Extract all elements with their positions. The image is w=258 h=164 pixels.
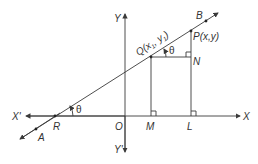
- right-angle-n: [186, 52, 191, 57]
- label-x-neg: X': [11, 111, 22, 122]
- point-b: [205, 20, 208, 23]
- label-y-neg: Y': [114, 144, 124, 155]
- label-theta-r: θ: [76, 104, 82, 115]
- label-l: L: [187, 121, 193, 132]
- label-theta-q: θ: [169, 45, 175, 56]
- label-m: M: [146, 121, 155, 132]
- point-r: [54, 115, 57, 118]
- right-angle-m: [151, 111, 156, 116]
- angle-arc-q: [164, 49, 166, 57]
- label-x: X: [242, 111, 250, 122]
- right-angle-l: [191, 111, 196, 116]
- label-a: A: [37, 132, 45, 143]
- label-q: Q(x1, y1): [134, 29, 171, 59]
- angle-arc-r: [70, 106, 73, 116]
- label-p: P(x,y): [193, 31, 219, 42]
- point-a: [35, 128, 38, 131]
- label-r: R: [53, 121, 60, 132]
- label-b: B: [196, 10, 203, 21]
- svg-text:Q(x1, y1): Q(x1, y1): [134, 29, 171, 59]
- label-y: Y: [114, 13, 122, 24]
- label-o: O: [115, 121, 123, 132]
- geometry-diagram: Y Y' X X' O M L R A B P(x,y) N θ θ Q(x1,…: [0, 0, 258, 164]
- label-n: N: [193, 56, 201, 67]
